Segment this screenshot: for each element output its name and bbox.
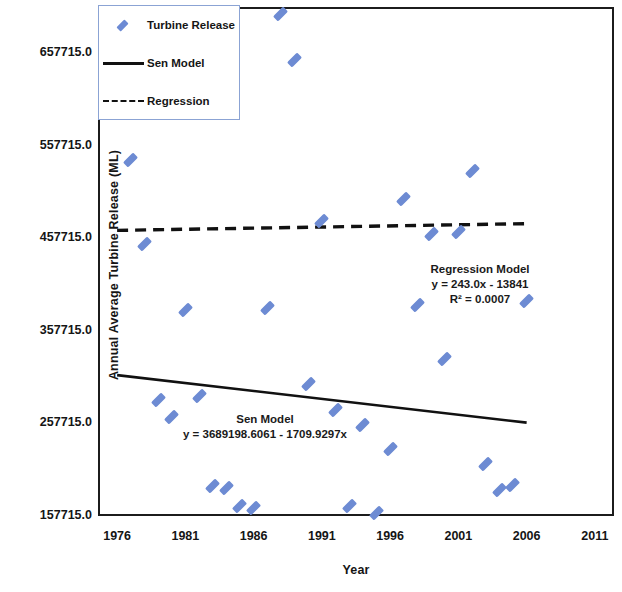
y-axis-tick-label: 157715.0 — [12, 508, 92, 522]
legend-label-sen-model: Sen Model — [147, 57, 205, 69]
sen-annotation-line-1: Sen Model — [140, 412, 390, 427]
regression-annotation-line-1: Regression Model — [400, 262, 560, 277]
x-axis-tick-label: 2001 — [428, 529, 488, 543]
x-axis-title: Year — [98, 563, 614, 577]
regression-annotation-line-2: y = 243.0x - 13841 — [400, 277, 560, 292]
legend-key-dashed-line-icon — [99, 82, 147, 120]
legend-key-diamond-icon — [99, 6, 147, 44]
y-axis-tick-label: 457715.0 — [12, 230, 92, 244]
legend-label-regression: Regression — [147, 95, 210, 107]
sen-annotation-line-2: y = 3689198.6061 - 1709.9297x — [140, 427, 390, 442]
legend-label-turbine-release: Turbine Release — [147, 19, 235, 31]
x-axis-tick-label: 1986 — [224, 529, 284, 543]
legend-item-sen-model: Sen Model — [99, 44, 241, 82]
legend-key-solid-line-icon — [99, 44, 147, 82]
y-axis-tick-label: 357715.0 — [12, 323, 92, 337]
scatter-chart-figure: Annual Average Turbine Release (ML) 1577… — [0, 0, 622, 592]
sen-annotation: Sen Model y = 3689198.6061 - 1709.9297x — [140, 412, 390, 442]
legend-item-turbine-release: Turbine Release — [99, 6, 241, 44]
y-axis-tick-label: 557715.0 — [12, 138, 92, 152]
x-axis-tick-label: 1991 — [292, 529, 352, 543]
legend-item-regression: Regression — [99, 82, 241, 120]
regression-annotation: Regression Model y = 243.0x - 13841 R² =… — [400, 262, 560, 307]
chart-legend: Turbine Release Sen Model Regression — [98, 5, 240, 120]
x-axis-tick-label: 1981 — [155, 529, 215, 543]
x-axis-tick-label: 2011 — [565, 529, 622, 543]
x-axis-tick-label: 2006 — [497, 529, 557, 543]
x-axis-tick-label: 1976 — [87, 529, 147, 543]
regression-annotation-line-3: R² = 0.0007 — [400, 292, 560, 307]
y-axis-tick-label: 657715.0 — [12, 45, 92, 59]
x-axis-tick-label: 1996 — [360, 529, 420, 543]
y-axis-tick-label: 257715.0 — [12, 415, 92, 429]
y-axis-tick-labels: 157715.0257715.0357715.0457715.0557715.0… — [8, 0, 92, 592]
